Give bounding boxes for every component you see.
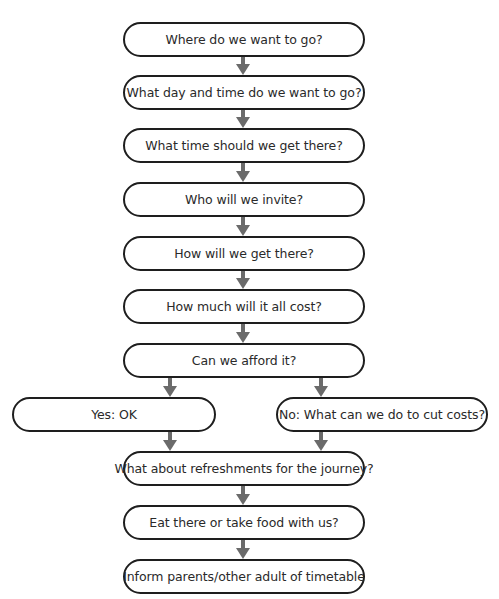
arrow-down-icon: [236, 540, 250, 559]
node-label: No: What can we do to cut costs?: [279, 407, 485, 422]
node-label: Eat there or take food with us?: [149, 515, 338, 530]
node-arrival-time: What time should we get there?: [123, 128, 365, 163]
arrow-down-icon: [314, 378, 328, 397]
node-refreshments: What about refreshments for the journey?: [123, 451, 365, 486]
arrow-down-icon: [314, 432, 328, 451]
node-total-cost: How much will it all cost?: [123, 289, 365, 324]
node-inform-parents: Inform parents/other adult of timetable: [123, 559, 365, 594]
node-who-to-invite: Who will we invite?: [123, 182, 365, 217]
node-label: What time should we get there?: [145, 138, 343, 153]
node-label: Inform parents/other adult of timetable: [123, 569, 365, 584]
node-label: Who will we invite?: [185, 192, 303, 207]
node-where-to-go: Where do we want to go?: [123, 22, 365, 57]
node-label: Can we afford it?: [192, 353, 296, 368]
node-label: How will we get there?: [174, 246, 314, 261]
arrow-down-icon: [163, 432, 177, 451]
node-eat-there-or-take-food: Eat there or take food with us?: [123, 505, 365, 540]
arrow-down-icon: [236, 57, 250, 75]
arrow-down-icon: [236, 271, 250, 289]
node-can-afford-decision: Can we afford it?: [123, 343, 365, 378]
node-label: Yes: OK: [91, 407, 137, 422]
arrow-down-icon: [236, 324, 250, 343]
arrow-down-icon: [163, 378, 177, 397]
node-label: What day and time do we want to go?: [127, 85, 362, 100]
node-label: What about refreshments for the journey?: [114, 461, 373, 476]
node-label: How much will it all cost?: [166, 299, 322, 314]
node-yes-ok: Yes: OK: [12, 397, 216, 432]
node-label: Where do we want to go?: [165, 32, 322, 47]
node-transport: How will we get there?: [123, 236, 365, 271]
arrow-down-icon: [236, 486, 250, 505]
arrow-down-icon: [236, 163, 250, 182]
node-day-and-time: What day and time do we want to go?: [123, 75, 365, 110]
arrow-down-icon: [236, 217, 250, 236]
flowchart: Where do we want to go? What day and tim…: [0, 0, 499, 599]
arrow-down-icon: [236, 110, 250, 128]
node-no-cut-costs: No: What can we do to cut costs?: [276, 397, 488, 432]
